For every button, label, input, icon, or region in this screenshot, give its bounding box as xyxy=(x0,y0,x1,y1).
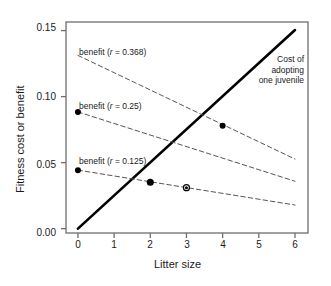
benefit-0125-label-pre: benefit ( xyxy=(79,156,110,166)
y-tick-label-0.15: 0.15 xyxy=(22,22,56,33)
x-axis-ticks xyxy=(78,233,295,238)
benefit-0125-label-post: = 0.125) xyxy=(113,156,147,166)
cost-annotation: Cost of adopting one juvenile xyxy=(218,54,304,86)
y-tick-label-0.10: 0.10 xyxy=(22,91,56,102)
benefit-0125-label: benefit (r = 0.125) xyxy=(79,157,146,166)
benefit-025-label-pre: benefit ( xyxy=(79,101,110,111)
benefit-025-label-post: = 0.25) xyxy=(113,101,142,111)
x-tick-label-3: 3 xyxy=(177,239,197,250)
figure-container: 0.00 0.05 0.10 0.15 0 1 2 3 4 5 6 Litter… xyxy=(0,0,331,286)
benefit-025-label: benefit (r = 0.25) xyxy=(79,102,142,111)
x-tick-label-0: 0 xyxy=(68,239,88,250)
benefit-0368-label-pre: benefit ( xyxy=(79,47,110,57)
x-tick-label-2: 2 xyxy=(140,239,160,250)
chart-data-markers xyxy=(75,109,226,191)
x-tick-label-5: 5 xyxy=(249,239,269,250)
benefit-0368-label: benefit (r = 0.368) xyxy=(79,48,146,57)
cost-annotation-line-1: Cost of xyxy=(218,54,304,65)
x-tick-label-4: 4 xyxy=(213,239,233,250)
y-tick-label-0.05: 0.05 xyxy=(22,159,56,170)
y-tick-label-0.00: 0.00 xyxy=(22,227,56,238)
y-axis-title: Fitness cost or benefit xyxy=(14,85,26,193)
x-axis-title: Litter size xyxy=(154,258,201,270)
x-tick-label-1: 1 xyxy=(104,239,124,250)
chart-canvas xyxy=(0,0,331,286)
x-tick-label-6: 6 xyxy=(285,239,305,250)
cost-annotation-line-2: adopting xyxy=(218,65,304,76)
benefit-0368-label-post: = 0.368) xyxy=(113,47,147,57)
y-axis-ticks xyxy=(61,31,66,229)
cost-annotation-line-3: one juvenile xyxy=(218,75,304,86)
